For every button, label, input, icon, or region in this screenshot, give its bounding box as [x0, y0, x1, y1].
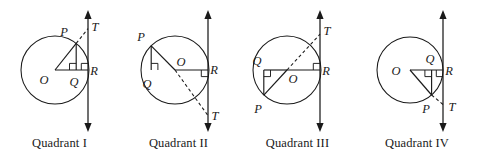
right-angle-mark-R [313, 63, 320, 70]
tangent-arrow-up-icon [84, 10, 91, 19]
tangent-arrow-up-icon [439, 10, 446, 19]
panel-quadrant-3: O P Q R T Quadrant III [238, 0, 357, 164]
diagram-quadrant-4: O P Q R T [357, 0, 477, 136]
right-angle-mark-Q [264, 70, 271, 77]
tangent-arrow-up-icon [316, 10, 323, 19]
caption-quadrant-1: Quadrant I [0, 136, 119, 151]
right-angle-mark-Q [70, 63, 77, 70]
caption-quadrant-4: Quadrant IV [357, 136, 477, 151]
point-label-P: P [421, 102, 430, 116]
point-label-T: T [92, 20, 100, 34]
point-label-O: O [391, 64, 400, 78]
point-label-O: O [39, 73, 48, 87]
tangent-arrow-down-icon [316, 123, 323, 132]
point-label-Q: Q [425, 52, 434, 66]
right-angle-mark-Q [425, 70, 432, 77]
point-label-R: R [321, 64, 330, 78]
diagram-quadrant-3: O P Q R T [238, 0, 357, 136]
quadrant-figure: O P Q R T Quadrant I O P Q R T Quadrant … [0, 0, 477, 164]
panel-quadrant-2: O P Q R T Quadrant II [119, 0, 238, 164]
right-angle-mark-Q [151, 63, 158, 70]
point-label-Q: Q [142, 77, 151, 91]
point-label-P: P [59, 25, 68, 39]
caption-quadrant-2: Quadrant II [119, 136, 238, 151]
tangent-arrow-up-icon [204, 10, 211, 19]
segment-secant-PT [432, 95, 443, 105]
segment-radius-OP [410, 70, 432, 95]
point-label-P: P [136, 30, 145, 44]
segment-secant-PT [76, 29, 88, 44]
right-angle-mark-R [81, 63, 88, 70]
right-angle-mark-R [201, 70, 208, 77]
point-label-T: T [449, 100, 457, 114]
point-label-O: O [288, 72, 297, 86]
point-label-R: R [89, 64, 98, 78]
point-label-R: R [444, 64, 453, 78]
diagram-quadrant-1: O P Q R T [0, 0, 119, 136]
point-label-P: P [253, 102, 262, 116]
point-label-T: T [324, 24, 332, 38]
tangent-arrow-down-icon [204, 123, 211, 132]
panel-quadrant-1: O P Q R T Quadrant I [0, 0, 119, 164]
segment-radius-OP [55, 43, 76, 70]
point-label-T: T [212, 109, 220, 123]
point-label-O: O [176, 55, 185, 69]
tangent-arrow-down-icon [439, 123, 446, 132]
point-label-Q: Q [252, 54, 261, 68]
panel-quadrant-4: O P Q R T Quadrant IV [357, 0, 477, 164]
point-label-Q: Q [69, 75, 78, 89]
segment-secant-OT [287, 34, 320, 70]
segment-radius-OP [264, 70, 287, 95]
diagram-quadrant-2: O P Q R T [119, 0, 238, 136]
caption-quadrant-3: Quadrant III [238, 136, 357, 151]
point-label-R: R [209, 63, 218, 77]
tangent-arrow-down-icon [84, 123, 91, 132]
segment-radius-OP [151, 46, 175, 70]
